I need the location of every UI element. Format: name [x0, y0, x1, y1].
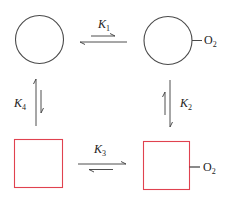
- circle-bound-shape: [144, 17, 192, 65]
- equilibrium-diagram: [0, 0, 227, 199]
- k4-label: K4: [14, 97, 26, 112]
- circle-o2-sub: 2: [213, 40, 217, 49]
- k3-sub: 3: [102, 149, 106, 158]
- k1-label: K1: [98, 18, 110, 33]
- k1-sub: 1: [106, 24, 110, 33]
- circle-unbound-shape: [16, 16, 64, 64]
- k2-label: K2: [180, 97, 192, 112]
- k3-label: K3: [94, 143, 106, 158]
- k2-equilibrium-arrows: [163, 80, 173, 127]
- square-o2-label: O2: [203, 161, 216, 176]
- square-o2-base: O: [203, 160, 212, 174]
- square-o2-sub: 2: [212, 167, 216, 176]
- k2-sub: 2: [188, 103, 192, 112]
- square-bound-shape: [144, 142, 190, 190]
- circle-o2-label: O2: [204, 34, 217, 49]
- k3-equilibrium-arrows: [78, 162, 126, 173]
- k2-base: K: [180, 96, 188, 110]
- k4-base: K: [14, 96, 22, 110]
- k3-base: K: [94, 142, 102, 156]
- k4-sub: 4: [22, 103, 26, 112]
- k1-equilibrium-arrows: [80, 34, 127, 45]
- k4-equilibrium-arrows: [34, 79, 44, 126]
- k1-base: K: [98, 17, 106, 31]
- circle-o2-base: O: [204, 33, 213, 47]
- square-unbound-shape: [15, 140, 63, 188]
